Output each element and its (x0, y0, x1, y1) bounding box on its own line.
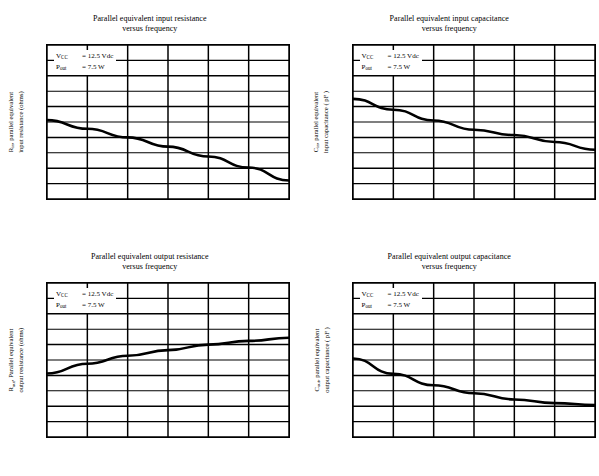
y-tick-mark (352, 407, 353, 408)
figure-sheet: Parallel equivalent input resistance ver… (0, 0, 599, 476)
y-tick-mark (352, 376, 353, 377)
y-tick-mark (352, 313, 353, 314)
y-tick-mark (352, 75, 353, 76)
y-tick-mark (46, 376, 47, 377)
plot-area: VCC= 12.5 Vdc Pout= 7.5 W 01002003004005… (352, 282, 596, 438)
y-axis-title: Rin, parallel equivalent input resistanc… (0, 44, 34, 200)
y-tick-mark (46, 44, 47, 45)
y-axis-title: Cout, parallel equivalent output capacit… (304, 282, 340, 438)
annotation-symbol: Pout (56, 300, 82, 312)
y-tick-mark (46, 407, 47, 408)
y-tick-mark (46, 169, 47, 170)
chart-title: Parallel equivalent input capacitance ve… (300, 14, 599, 33)
annotation-block: VCC= 12.5 Vdc Pout= 7.5 W (360, 50, 422, 75)
y-tick-mark (46, 138, 47, 139)
plot-area: VCC= 12.5 Vdc Pout= 7.5 W 02004006008001… (352, 44, 596, 200)
y-tick-mark (46, 107, 47, 108)
y-tick-mark (46, 345, 47, 346)
annotation-block: VCC= 12.5 Vdc Pout= 7.5 W (54, 50, 116, 75)
y-tick-mark (352, 107, 353, 108)
y-tick-mark (352, 138, 353, 139)
chart-panel-input-resistance: Parallel equivalent input resistance ver… (0, 0, 300, 238)
chart-panel-input-capacitance: Parallel equivalent input capacitance ve… (300, 0, 599, 238)
y-tick-mark (46, 282, 47, 283)
chart-title: Parallel equivalent output capacitance v… (300, 252, 599, 271)
annotation-symbol: Pout (362, 300, 388, 312)
chart-title: Parallel equivalent input resistance ver… (0, 14, 300, 33)
annotation-block: VCC= 12.5 Vdc Pout= 7.5 W (360, 288, 422, 313)
y-tick-mark (46, 313, 47, 314)
y-tick-mark (352, 169, 353, 170)
y-axis-title: Cin, parallel equivalent input capacitan… (304, 44, 340, 200)
y-tick-mark (352, 345, 353, 346)
y-tick-mark (352, 282, 353, 283)
annotation-symbol: Pout (56, 62, 82, 74)
annotation-symbol: Pout (362, 62, 388, 74)
plot-area: VCC= 12.5 Vdc Pout= 7.5 W 05.01015202540… (46, 282, 290, 438)
chart-panel-output-capacitance: Parallel equivalent output capacitance v… (300, 238, 599, 476)
y-axis-title: Rout, Parallel equivalent output resista… (0, 282, 34, 438)
chart-title: Parallel equivalent output resistance ve… (0, 252, 300, 271)
annotation-block: VCC= 12.5 Vdc Pout= 7.5 W (54, 288, 116, 313)
y-tick-mark (46, 75, 47, 76)
plot-area: VCC= 12.5 Vdc Pout= 7.5 W 05.01015202540… (46, 44, 290, 200)
chart-panel-output-resistance: Parallel equivalent output resistance ve… (0, 238, 300, 476)
y-tick-mark (352, 44, 353, 45)
